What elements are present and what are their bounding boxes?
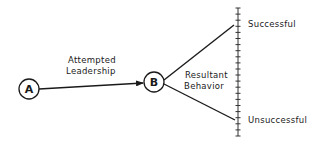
edge-label-line2: Leadership [66, 66, 116, 76]
leadership-diagram: Attempted Leadership A B Resultant Behav… [0, 0, 315, 145]
node-b: B [144, 72, 164, 92]
node-a-label: A [25, 83, 34, 96]
edge-a-to-b [39, 83, 143, 89]
branch-label-line2: Behavior [184, 81, 224, 91]
branch-label-line1: Resultant [185, 70, 228, 80]
outcome-scale [236, 8, 241, 136]
node-a: A [19, 79, 39, 99]
scale-label-successful: Successful [248, 19, 296, 29]
scale-label-unsuccessful: Unsuccessful [248, 115, 307, 125]
edge-label-line1: Attempted [68, 55, 116, 65]
node-b-label: B [150, 76, 158, 89]
